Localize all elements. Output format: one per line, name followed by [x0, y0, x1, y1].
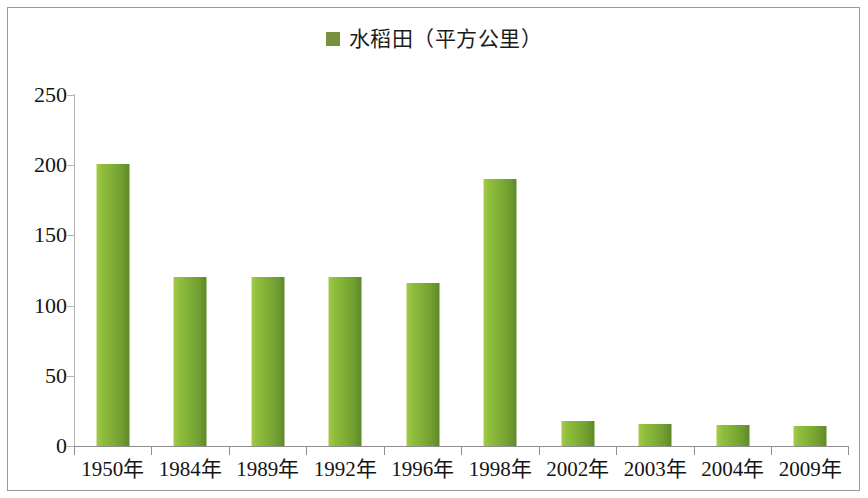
- x-axis-tick: [461, 446, 462, 455]
- bar-chart-image: 水稻田（平方公里） 250 200 150 100 50 0: [0, 0, 868, 498]
- y-axis-label-0: 0: [56, 435, 67, 457]
- x-axis-label-2003: 2003年: [617, 459, 695, 480]
- x-axis-tick: [384, 446, 385, 455]
- x-axis-label-2004: 2004年: [694, 459, 772, 480]
- y-axis-label-200: 200: [34, 154, 67, 176]
- bar-slot: [74, 94, 152, 446]
- x-axis-label-2002: 2002年: [539, 459, 617, 480]
- bar-2002: [561, 421, 594, 446]
- bar-slot: [694, 94, 772, 446]
- bar-series-rice-paddy: [74, 94, 849, 446]
- x-axis-label-1996: 1996年: [384, 459, 462, 480]
- bar-slot: [772, 94, 850, 446]
- bar-slot: [617, 94, 695, 446]
- x-axis-tick: [539, 446, 540, 455]
- y-axis-label-150: 150: [34, 224, 67, 246]
- chart-legend: 水稻田（平方公里）: [0, 24, 868, 54]
- bar-1996: [406, 283, 439, 446]
- x-axis-tick: [306, 446, 307, 455]
- x-axis-label-2009: 2009年: [772, 459, 850, 480]
- bar-slot: [229, 94, 307, 446]
- x-axis-tick: [616, 446, 617, 455]
- y-axis-label-100: 100: [34, 295, 67, 317]
- bar-2004: [716, 425, 749, 446]
- x-axis-label-1989: 1989年: [229, 459, 307, 480]
- x-axis-label-1998: 1998年: [462, 459, 540, 480]
- bar-slot: [152, 94, 230, 446]
- bar-1950: [96, 164, 129, 446]
- bar-1989: [251, 277, 284, 446]
- legend-label-rice-paddy: 水稻田（平方公里）: [349, 29, 543, 50]
- bar-slot: [307, 94, 385, 446]
- bar-1992: [329, 277, 362, 446]
- x-axis-label-1992: 1992年: [307, 459, 385, 480]
- x-axis-tick: [151, 446, 152, 455]
- x-axis-tick: [74, 446, 75, 455]
- bar-1998: [484, 179, 517, 447]
- y-axis-label-50: 50: [45, 365, 67, 387]
- x-axis-label-1984: 1984年: [152, 459, 230, 480]
- bar-slot: [462, 94, 540, 446]
- bar-slot: [539, 94, 617, 446]
- bar-2003: [639, 424, 672, 447]
- y-axis-label-250: 250: [34, 84, 67, 106]
- x-axis-tick: [848, 446, 849, 455]
- x-axis-label-1950: 1950年: [74, 459, 152, 480]
- legend-swatch-icon: [326, 32, 340, 46]
- bar-1984: [174, 277, 207, 446]
- x-axis-tick: [771, 446, 772, 455]
- x-axis-tick: [229, 446, 230, 455]
- x-axis-tick: [694, 446, 695, 455]
- bar-2009: [794, 426, 827, 446]
- bar-slot: [384, 94, 462, 446]
